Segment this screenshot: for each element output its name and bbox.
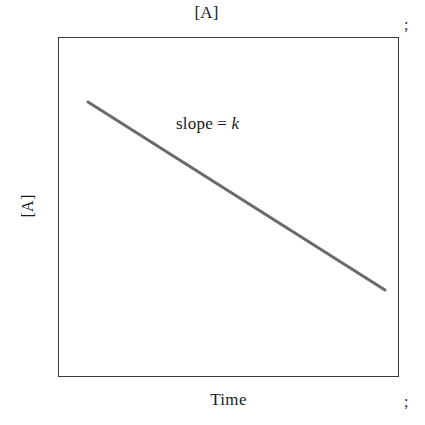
page-title: [A] [0, 3, 425, 23]
margin-mark-bottom: ; [404, 394, 408, 410]
slope-annotation: slope = k [176, 113, 239, 135]
x-axis-label: Time [58, 389, 399, 410]
plot-area-frame [58, 37, 399, 377]
margin-mark-top: ; [404, 17, 408, 33]
y-axis-label: [A] [18, 156, 38, 256]
slope-annotation-variable: k [232, 114, 240, 133]
zero-order-concentration-plot: [A] [A] Time slope = k ; ; [0, 0, 425, 425]
slope-annotation-prefix: slope = [176, 114, 232, 133]
